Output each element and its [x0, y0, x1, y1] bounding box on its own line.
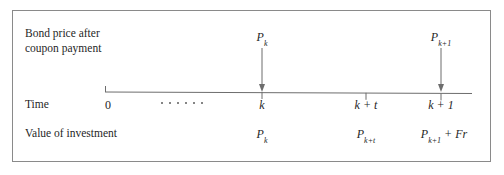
- tick-label-k: k: [259, 98, 264, 113]
- marker-k-subscript: k: [264, 39, 268, 48]
- bond-price-caption: Bond price after coupon payment: [25, 26, 175, 56]
- bond-price-timeline-figure: Bond price after coupon payment Pk Pk+1: [0, 0, 504, 175]
- timeline-ellipsis: [161, 100, 203, 106]
- value-entry-k-plus-t: Pk+t: [357, 127, 376, 142]
- value-k1-subscript: k+1: [428, 136, 441, 145]
- value-entry-k: Pk: [257, 127, 268, 142]
- ellipsis-dot: [193, 102, 195, 104]
- value-kt-subscript: k+t: [364, 136, 375, 145]
- bond-price-marker-k: Pk: [257, 30, 268, 45]
- value-k1-extra: + Fr: [441, 127, 467, 141]
- value-entry-k-plus-1: Pk+1 + Fr: [421, 127, 467, 142]
- value-k-subscript: k: [264, 136, 268, 145]
- caption-line-1: Bond price after: [25, 26, 175, 41]
- ellipsis-dot: [185, 102, 187, 104]
- tick-label-0: 0: [105, 98, 111, 113]
- ellipsis-dot: [201, 102, 203, 104]
- ellipsis-dot: [161, 102, 163, 104]
- caption-line-2: coupon payment: [25, 41, 175, 56]
- tick-label-k-plus-1: k + 1: [428, 98, 453, 113]
- ellipsis-dot: [177, 102, 179, 104]
- tick-label-k-plus-t: k + t: [355, 98, 378, 113]
- marker-k1-subscript: k+1: [438, 39, 451, 48]
- time-row-label: Time: [25, 98, 49, 110]
- value-row-label: Value of investment: [25, 127, 117, 139]
- bond-price-marker-k-plus-1: Pk+1: [431, 30, 451, 45]
- ellipsis-dot: [169, 102, 171, 104]
